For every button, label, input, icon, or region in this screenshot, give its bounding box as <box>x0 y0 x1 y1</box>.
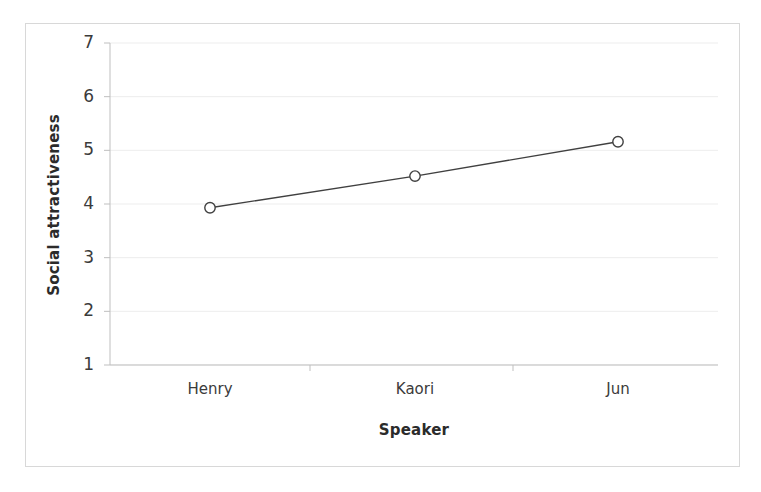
y-tick-label: 5 <box>34 141 94 158</box>
y-axis-title: Social attractiveness <box>45 95 63 315</box>
data-point-marker-kaori <box>410 171 420 181</box>
y-tick-label: 1 <box>34 356 94 373</box>
data-point-marker-jun <box>613 137 623 147</box>
y-tick-label: 7 <box>34 34 94 51</box>
data-point-marker-henry <box>205 203 215 213</box>
series-markers-social-attractiveness <box>205 137 623 213</box>
y-axis-ticks <box>104 43 110 365</box>
y-tick-label: 2 <box>34 302 94 319</box>
chart-plot <box>0 0 761 492</box>
x-axis-ticks <box>310 365 513 371</box>
chart-screenshot: 1234567 HenryKaoriJun Speaker Social att… <box>0 0 761 492</box>
x-category-label-kaori: Kaori <box>345 382 485 397</box>
y-tick-label: 4 <box>34 195 94 212</box>
x-axis-title: Speaker <box>110 421 718 439</box>
x-category-label-jun: Jun <box>548 382 688 397</box>
y-tick-label: 3 <box>34 249 94 266</box>
x-category-label-henry: Henry <box>140 382 280 397</box>
y-tick-label: 6 <box>34 88 94 105</box>
gridlines <box>110 43 718 365</box>
